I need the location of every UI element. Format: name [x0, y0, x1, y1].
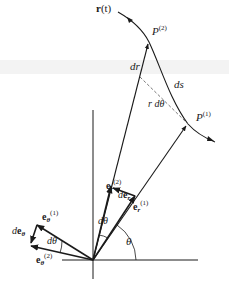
r-dtheta-label: r dθ: [148, 99, 164, 109]
point-p1-label: P(1): [196, 111, 211, 123]
dtheta-r-label: dθ: [98, 216, 108, 226]
de-theta-vector: [31, 225, 37, 243]
curve-arrow-icon: [207, 136, 214, 141]
dtheta-r-arc: [99, 235, 108, 238]
dtheta-theta-label: dθ: [47, 236, 57, 246]
dtheta-theta-arc: [60, 241, 62, 253]
theta-label: θ: [126, 236, 131, 247]
e-r1-label: er(1): [133, 200, 148, 214]
e-r1-vector: [93, 196, 135, 260]
e-theta1-label: eθ(1): [42, 210, 58, 224]
point-p2-label: P(2): [152, 25, 167, 37]
de-r-label: der: [118, 190, 130, 202]
ds-label: ds: [174, 79, 184, 90]
de-theta-label: deθ: [12, 226, 25, 238]
dr-label: dr: [130, 61, 140, 72]
curve-label: r(t): [96, 3, 111, 14]
polar-diagram: [0, 0, 229, 294]
e-theta2-label: eθ(2): [36, 253, 52, 267]
